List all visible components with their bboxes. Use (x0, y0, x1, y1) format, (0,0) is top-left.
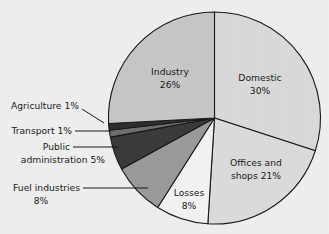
pie-label-losses-line1: Losses (174, 187, 205, 198)
pie-label-offices-line1: Offices and (230, 157, 282, 168)
pie-label-domestic-line2: 30% (250, 85, 271, 96)
pie-label-fuel-industries-line1: Fuel industries (13, 182, 80, 193)
pie-chart: Industry 26% Domestic 30% Offices and sh… (0, 0, 329, 234)
pie-label-public-administration-line2: administration 5% (21, 154, 106, 165)
pie-label-losses-line2: 8% (182, 200, 197, 211)
pie-label-fuel-industries-line2: 8% (34, 195, 49, 206)
pie-label-agriculture: Agriculture 1% (11, 100, 79, 111)
leader-line-agriculture (82, 109, 104, 123)
pie-chart-canvas: Industry 26% Domestic 30% Offices and sh… (0, 0, 329, 234)
pie-label-industry-line2: 26% (160, 79, 181, 90)
pie-label-public-administration-line1: Public (43, 141, 70, 152)
pie-label-offices-line2: shops 21% (231, 170, 281, 181)
pie-label-domestic-line1: Domestic (238, 72, 281, 83)
pie-label-transport: Transport 1% (10, 125, 72, 136)
pie-label-industry-line1: Industry (151, 66, 189, 77)
